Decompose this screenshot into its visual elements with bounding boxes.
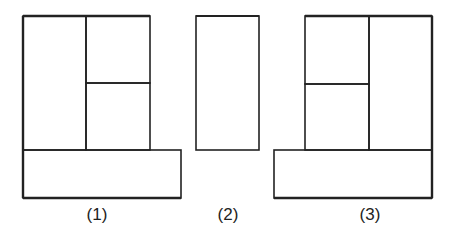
upper-left-top-rect — [305, 16, 369, 84]
upper-left-bottom-rect — [305, 84, 369, 150]
bottom-wide-rect — [23, 150, 181, 198]
figure-1 — [23, 16, 181, 198]
figure-2 — [196, 16, 259, 150]
tall-rect — [196, 16, 259, 150]
figure-3-label: (3) — [360, 205, 381, 225]
diagram-canvas — [0, 0, 454, 237]
figure-3 — [274, 16, 432, 198]
figure-1-label: (1) — [87, 205, 108, 225]
upper-left-rect — [23, 16, 86, 150]
figure-2-label: (2) — [218, 205, 239, 225]
upper-right-rect — [369, 16, 432, 150]
bottom-wide-rect — [274, 150, 432, 198]
upper-right-top-rect — [86, 16, 150, 83]
upper-right-bottom-rect — [86, 83, 150, 150]
